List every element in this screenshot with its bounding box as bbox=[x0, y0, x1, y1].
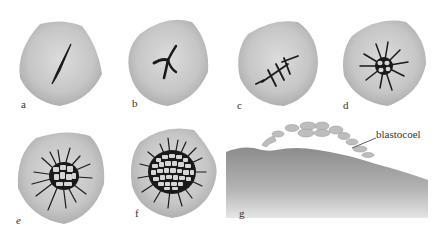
panel-g: g blastocoel bbox=[226, 140, 434, 220]
panel-c: c bbox=[228, 14, 328, 114]
egg-cleavage-single-furrow-icon bbox=[10, 12, 110, 112]
egg-cleavage-cell-cluster-icon bbox=[12, 128, 112, 228]
panel-b: b bbox=[118, 12, 218, 112]
panel-e: e bbox=[12, 128, 112, 228]
panel-label-g: g bbox=[239, 208, 245, 219]
blastocoel-label: blastocoel bbox=[376, 129, 421, 140]
panel-d: d bbox=[334, 14, 434, 114]
panel-label-c: c bbox=[237, 100, 242, 111]
egg-cleavage-radiating-cells-icon bbox=[334, 14, 434, 114]
panel-f: f bbox=[126, 122, 226, 226]
panel-label-d: d bbox=[343, 100, 349, 111]
panel-a: a bbox=[10, 12, 110, 112]
panel-label-e: e bbox=[16, 215, 21, 226]
egg-cleavage-multiple-furrows-icon bbox=[228, 14, 328, 114]
panel-label-f: f bbox=[135, 208, 139, 219]
egg-cleavage-blastodisc-icon bbox=[126, 122, 226, 226]
embryo-section-blastocoel-icon bbox=[226, 140, 434, 220]
panel-label-b: b bbox=[132, 98, 138, 109]
panel-label-a: a bbox=[21, 99, 26, 110]
